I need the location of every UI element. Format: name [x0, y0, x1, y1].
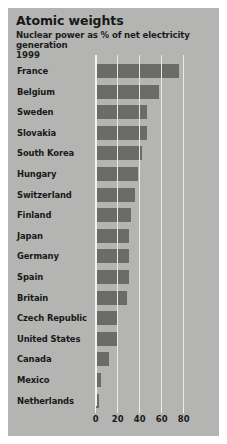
bar-row: Sweden — [8, 105, 219, 119]
bar-row: South Korea — [8, 146, 219, 160]
bar — [95, 291, 127, 305]
bar-row: Czech Republic — [8, 311, 219, 325]
bar-label: Slovakia — [17, 126, 56, 140]
bar-row: Finland — [8, 208, 219, 222]
bar-row: Mexico — [8, 373, 219, 387]
bar-row: Slovakia — [8, 126, 219, 140]
axis-tick-label: 40 — [134, 414, 146, 424]
bar-label: Belgium — [17, 85, 55, 99]
bar-label: United States — [17, 332, 80, 346]
bar-row: Belgium — [8, 85, 219, 99]
bar-label: Britain — [17, 291, 48, 305]
bar-label: France — [17, 64, 48, 78]
axis-tick-label: 60 — [156, 414, 168, 424]
bar — [95, 188, 135, 202]
bar — [95, 208, 131, 222]
chart-figure: Atomic weights Nuclear power as % of net… — [0, 0, 227, 444]
axis-tick-label: 0 — [93, 414, 99, 424]
bar — [95, 85, 159, 99]
bar-row: Spain — [8, 270, 219, 284]
axis-tick — [139, 406, 140, 413]
bar-row: Hungary — [8, 167, 219, 181]
bar-row: Germany — [8, 249, 219, 263]
bar — [95, 126, 147, 140]
bar — [95, 146, 142, 160]
bar-label: Switzerland — [17, 188, 72, 202]
bar-label: Germany — [17, 249, 59, 263]
bar — [95, 373, 101, 387]
chart-header: Atomic weights Nuclear power as % of net… — [8, 8, 219, 62]
x-axis: 020406080 — [8, 406, 219, 436]
bar — [95, 332, 117, 346]
bar-rows: FranceBelgiumSwedenSlovakiaSouth KoreaHu… — [8, 55, 219, 406]
axis-tick — [183, 406, 184, 413]
page-title: Atomic weights — [16, 14, 211, 28]
bar-row: Britain — [8, 291, 219, 305]
bar — [95, 311, 118, 325]
axis-tick-label: 80 — [178, 414, 190, 424]
bar — [95, 105, 147, 119]
plot-area: FranceBelgiumSwedenSlovakiaSouth KoreaHu… — [8, 55, 219, 436]
axis-tick — [117, 406, 118, 413]
bar-label: Finland — [17, 208, 51, 222]
bar-label: Japan — [17, 229, 43, 243]
bar — [95, 64, 179, 78]
chart-subtitle: Nuclear power as % of net electricity ge… — [16, 30, 211, 50]
axis-tick — [95, 406, 96, 413]
bar-label: Mexico — [17, 373, 49, 387]
bar-row: United States — [8, 332, 219, 346]
bar-label: South Korea — [17, 146, 74, 160]
bar-row: Japan — [8, 229, 219, 243]
bar-label: Canada — [17, 352, 51, 366]
bar — [95, 270, 129, 284]
bar — [95, 249, 129, 263]
bar-label: Sweden — [17, 105, 54, 119]
axis-tick — [161, 406, 162, 413]
bar-label: Spain — [17, 270, 43, 284]
bar-label: Hungary — [17, 167, 56, 181]
bar-label: Czech Republic — [17, 311, 87, 325]
bar-row: Switzerland — [8, 188, 219, 202]
bar — [95, 167, 138, 181]
bar-row: Canada — [8, 352, 219, 366]
bar — [95, 352, 109, 366]
axis-tick-label: 20 — [112, 414, 124, 424]
bar-row: France — [8, 64, 219, 78]
chart-panel: Atomic weights Nuclear power as % of net… — [8, 8, 219, 436]
bar — [95, 229, 129, 243]
